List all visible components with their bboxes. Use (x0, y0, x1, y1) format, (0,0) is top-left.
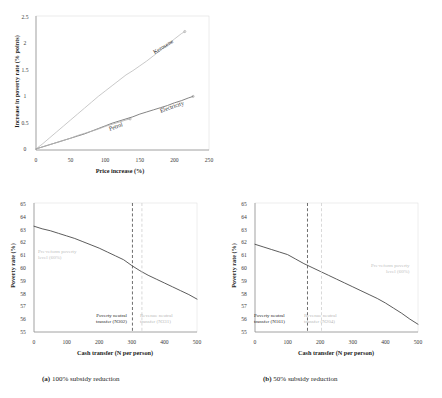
br-chart-xlabel: Cash transfer (N per person) (271, 349, 401, 356)
caption-a-text: 100% subsidy reduction (52, 375, 120, 383)
bl-prereform-line2: level (60%) (38, 255, 76, 261)
bl-chart-ytick: 63 (16, 227, 30, 233)
br-chart-xtick: 100 (281, 339, 295, 345)
top-chart-xtick: 150 (133, 157, 147, 163)
bl-chart-ytick: 61 (16, 252, 30, 258)
top-chart-xtick: 200 (167, 157, 181, 163)
bl-chart-xtick: 500 (190, 339, 204, 345)
top-chart-xtick: 0 (29, 157, 43, 163)
br-prereform-line2: level (60%) (371, 269, 409, 275)
bl-chart-ytick: 60 (16, 265, 30, 271)
br-chart-ytick: 65 (237, 201, 251, 207)
top-chart-ytick: 0.5 (18, 120, 32, 126)
bl-chart-xlabel: Cash transfer (N per person) (50, 349, 180, 356)
br-chart-ytick: 64 (237, 214, 251, 220)
br-chart-ytick: 63 (237, 227, 251, 233)
bl-chart-ytick: 58 (16, 291, 30, 297)
br-poverty-neutral-line2: transfer (N161) (254, 319, 285, 325)
br-chart-xtick: 0 (248, 339, 262, 345)
br-revenue-neutral-line2: transfer (N204) (304, 319, 337, 325)
bl-chart-ytick: 65 (16, 201, 30, 207)
top-chart-panel: Increase in poverty rate (% points) 2.5 … (0, 0, 260, 190)
bl-chart-ytick: 64 (16, 214, 30, 220)
caption-a-tag: (a) (42, 375, 50, 383)
bottom-left-chart-panel: Poverty rate (%) 65 64 63 62 61 60 59 58… (0, 192, 221, 367)
bl-chart-xtick: 0 (27, 339, 41, 345)
br-chart-ytick: 58 (237, 291, 251, 297)
br-poverty-neutral-annotation: Poverty neutral transfer (N161) (254, 313, 285, 326)
top-chart-ytick: 2.5 (18, 14, 32, 20)
top-chart-ytick: 1.5 (18, 67, 32, 73)
top-chart-ytick: 2 (18, 40, 32, 46)
bl-chart-ytick: 59 (16, 278, 30, 284)
bottom-right-chart-panel: Poverty rate (%) 65 64 63 62 61 60 59 58… (221, 192, 442, 367)
bl-chart-ylabel: Poverty rate (%) (9, 234, 16, 298)
caption-b-tag: (b) (263, 375, 272, 383)
bl-poverty-neutral-annotation: Poverty neutral transfer (N302) (96, 313, 127, 326)
br-revenue-neutral-annotation: Revenue neutral transfer (N204) (304, 313, 337, 326)
caption-b: (b) 50% subsidy reduction (263, 375, 337, 383)
br-prereform-annotation: Pre-reform poverty level (60%) (371, 263, 409, 276)
br-chart-ytick: 61 (237, 252, 251, 258)
bl-chart-ytick: 57 (16, 303, 30, 309)
br-chart-xtick: 200 (313, 339, 327, 345)
top-chart-xtick: 50 (64, 157, 78, 163)
bl-chart-ytick: 55 (16, 329, 30, 335)
bl-chart-xtick: 300 (125, 339, 139, 345)
bl-revenue-neutral-annotation: Revenue neutral transfer (N331) (140, 313, 173, 326)
bl-chart-xtick: 200 (92, 339, 106, 345)
br-chart-ytick: 56 (237, 316, 251, 322)
br-chart-ytick: 62 (237, 239, 251, 245)
figure-root: Increase in poverty rate (% points) 2.5 … (0, 0, 442, 398)
bl-chart-xtick: 100 (60, 339, 74, 345)
caption-b-text: 50% subsidy reduction (273, 375, 337, 383)
top-chart-xlabel: Price increase (%) (56, 167, 184, 174)
bl-chart-ytick: 56 (16, 316, 30, 322)
bl-prereform-annotation: Pre-reform poverty level (60%) (38, 249, 76, 262)
br-chart-ytick: 59 (237, 278, 251, 284)
bl-chart-xtick: 400 (157, 339, 171, 345)
br-chart-xtick: 300 (346, 339, 360, 345)
br-chart-ytick: 55 (237, 329, 251, 335)
br-chart-xtick: 400 (378, 339, 392, 345)
bl-revenue-neutral-line2: transfer (N331) (140, 319, 173, 325)
br-chart-ytick: 57 (237, 303, 251, 309)
top-chart-xtick: 250 (202, 157, 216, 163)
br-chart-ylabel: Poverty rate (%) (230, 234, 237, 298)
br-chart-ytick: 60 (237, 265, 251, 271)
bl-chart-ytick: 62 (16, 239, 30, 245)
top-chart-xtick: 100 (98, 157, 112, 163)
top-chart-ytick: 0 (18, 146, 32, 152)
top-chart-plot (36, 16, 209, 150)
caption-a: (a) 100% subsidy reduction (42, 375, 120, 383)
top-chart-ytick: 1 (18, 93, 32, 99)
br-chart-xtick: 500 (411, 339, 425, 345)
bl-poverty-neutral-line2: transfer (N302) (96, 319, 127, 325)
